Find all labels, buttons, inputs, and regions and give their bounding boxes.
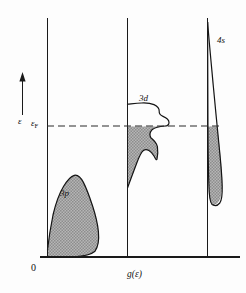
origin-label: 0 bbox=[31, 263, 36, 273]
band-label-4s: 4s bbox=[217, 36, 225, 45]
fermi-label-subscript: F bbox=[35, 122, 39, 129]
band-3d-fill-occupied bbox=[128, 126, 169, 188]
energy-axis-label: ε bbox=[18, 117, 22, 126]
band-label-3p: 3p bbox=[60, 189, 69, 198]
band-3p bbox=[48, 175, 99, 257]
energy-arrow-head bbox=[19, 72, 25, 82]
dos-plot-svg bbox=[0, 0, 246, 293]
band-3p-fill bbox=[48, 175, 99, 257]
x-axis-label: g(ε) bbox=[127, 270, 142, 280]
band-4s-fill-occupied bbox=[208, 127, 222, 206]
dos-figure: ε εF 3p 3d 4s 0 g(ε) bbox=[0, 0, 246, 293]
band-4s bbox=[208, 22, 223, 205]
energy-axis-arrow bbox=[19, 72, 25, 115]
band-label-3d: 3d bbox=[139, 94, 148, 103]
fermi-level-label: εF bbox=[31, 119, 38, 130]
band-3d bbox=[128, 103, 170, 188]
